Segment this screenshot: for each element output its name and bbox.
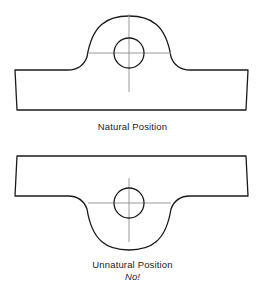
figure-natural-position: [0, 0, 265, 120]
drawing-page: Natural Position Unnatural Position No!: [0, 0, 265, 284]
caption-no-annotation: No!: [0, 271, 265, 283]
figure-unnatural-position: [0, 142, 265, 257]
caption-natural-position: Natural Position: [0, 121, 265, 133]
caption-unnatural-position: Unnatural Position: [0, 259, 265, 271]
